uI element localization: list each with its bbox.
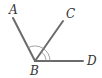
angle-diagram: A B C D xyxy=(0,0,102,78)
label-b: B xyxy=(29,64,39,78)
label-a: A xyxy=(8,3,18,17)
angle-arc-cbd xyxy=(41,52,46,61)
label-c: C xyxy=(66,7,75,21)
label-d: D xyxy=(86,54,97,68)
ray-ba xyxy=(13,18,35,61)
